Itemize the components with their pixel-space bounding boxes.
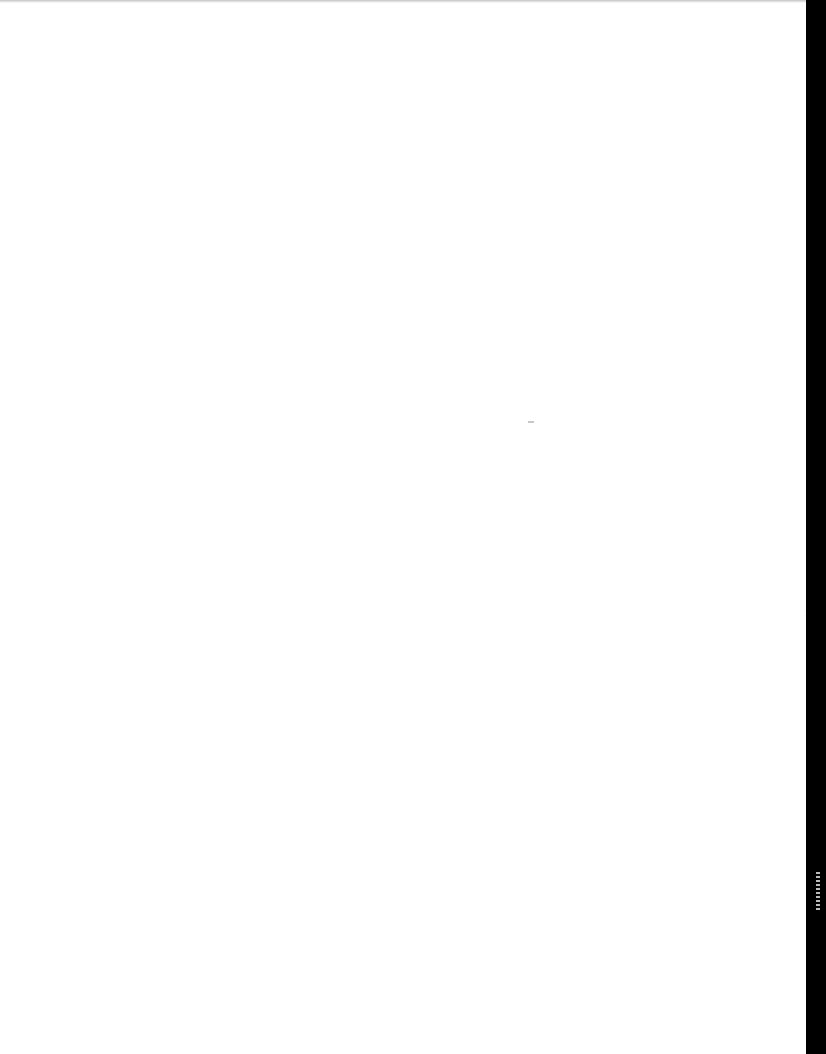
scan-speck [528,421,534,423]
blank-scanned-page [0,0,806,1054]
top-edge-shadow [0,0,806,3]
edge-marks [816,870,820,910]
